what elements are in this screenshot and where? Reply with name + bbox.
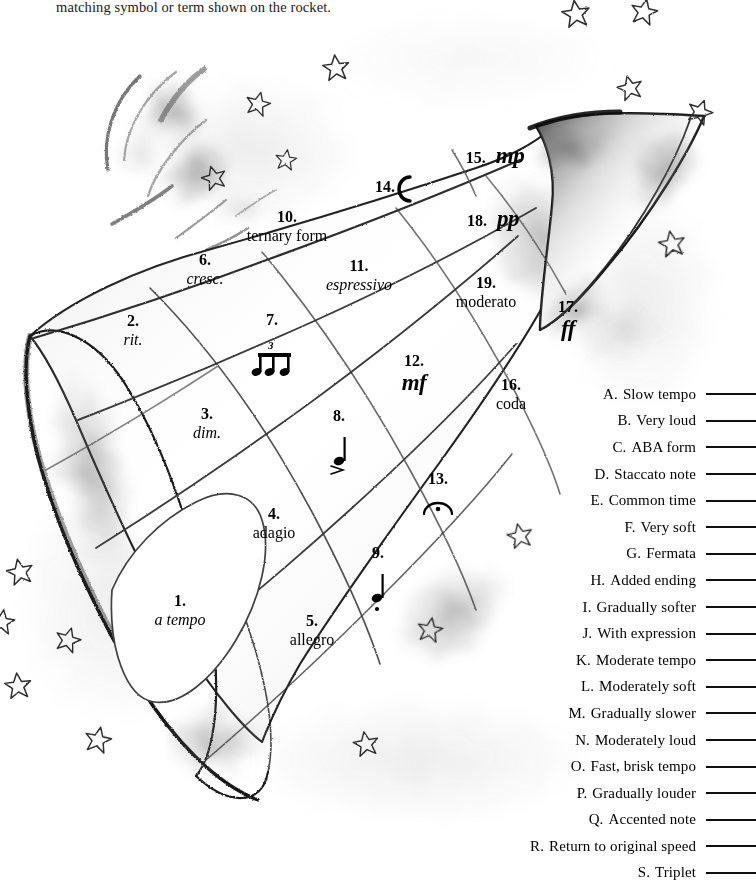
- rocket-label-3: 3. dim.: [193, 405, 221, 442]
- answer-row[interactable]: B.Very loud: [470, 408, 756, 435]
- rocket-label-19: 19. moderato: [456, 274, 516, 311]
- answer-blank-line[interactable]: [706, 579, 756, 581]
- rocket-label-18: 18. pp: [467, 207, 519, 232]
- answer-letter: Q.: [589, 811, 604, 827]
- answer-row[interactable]: K.Moderate tempo: [470, 647, 756, 674]
- rocket-label-7: 7.: [266, 311, 278, 328]
- answer-label: Slow tempo: [623, 386, 696, 402]
- rocket-label-5: 5. allegro: [290, 612, 334, 649]
- answer-blank-line[interactable]: [706, 845, 756, 847]
- answer-label: Common time: [609, 492, 696, 508]
- answer-label: ABA form: [631, 439, 696, 455]
- answer-letter: A.: [603, 386, 618, 402]
- answer-label: With expression: [597, 625, 696, 641]
- answer-label: Gradually slower: [591, 705, 696, 721]
- rocket-label-8: 8.: [333, 407, 345, 424]
- answer-label: Moderately soft: [599, 678, 696, 694]
- answer-row[interactable]: S.Triplet: [470, 860, 756, 880]
- answer-blank-line[interactable]: [706, 872, 756, 874]
- answer-row[interactable]: A.Slow tempo: [470, 381, 756, 408]
- answer-blank-line[interactable]: [706, 792, 756, 794]
- answer-letter: S.: [638, 864, 650, 880]
- answer-row[interactable]: H.Added ending: [470, 567, 756, 594]
- rocket-label-1: 1. a tempo: [154, 592, 205, 629]
- answer-letter: J.: [582, 625, 592, 641]
- answer-label: Return to original speed: [549, 838, 696, 854]
- answer-row[interactable]: Q.Accented note: [470, 807, 756, 834]
- answer-blank-line[interactable]: [706, 659, 756, 661]
- rocket-label-6: 6. cresc.: [186, 251, 223, 288]
- answer-letter: H.: [590, 572, 605, 588]
- answer-row[interactable]: O.Fast, brisk tempo: [470, 753, 756, 780]
- rocket-label-17: 17. ff: [558, 298, 578, 342]
- answer-label: Moderately loud: [595, 732, 696, 748]
- answer-letter: G.: [626, 545, 641, 561]
- answer-label: Moderate tempo: [596, 652, 696, 668]
- rocket-label-15: 15. mp: [466, 144, 524, 169]
- answer-blank-line[interactable]: [706, 712, 756, 714]
- answer-letter: C.: [612, 439, 626, 455]
- answer-blank-line[interactable]: [706, 500, 756, 502]
- answer-letter: L.: [581, 678, 594, 694]
- answer-label: Triplet: [655, 864, 696, 880]
- answer-blank-line[interactable]: [706, 686, 756, 688]
- rocket-label-12: 12. mf: [402, 352, 427, 396]
- answer-blank-line[interactable]: [706, 553, 756, 555]
- answer-blank-line[interactable]: [706, 739, 756, 741]
- answer-letter: P.: [577, 785, 588, 801]
- answer-letter: I.: [583, 599, 592, 615]
- answer-key-list: A.Slow tempo B.Very loud C.ABA form D.St…: [470, 381, 756, 880]
- answer-letter: B.: [617, 412, 631, 428]
- answer-row[interactable]: I.Gradually softer: [470, 594, 756, 621]
- answer-row[interactable]: G.Fermata: [470, 541, 756, 568]
- answer-letter: E.: [591, 492, 604, 508]
- answer-label: Gradually louder: [592, 785, 696, 801]
- answer-letter: R.: [530, 838, 544, 854]
- answer-label: Gradually softer: [597, 599, 696, 615]
- rocket-label-2: 2. rit.: [123, 312, 142, 349]
- answer-letter: M.: [568, 705, 585, 721]
- answer-letter: O.: [571, 758, 586, 774]
- answer-letter: F.: [624, 519, 635, 535]
- answer-row[interactable]: M.Gradually slower: [470, 700, 756, 727]
- answer-row[interactable]: N.Moderately loud: [470, 727, 756, 754]
- answer-row[interactable]: J.With expression: [470, 620, 756, 647]
- answer-blank-line[interactable]: [706, 420, 756, 422]
- answer-row[interactable]: R.Return to original speed: [470, 833, 756, 860]
- answer-label: Very loud: [636, 412, 696, 428]
- answer-row[interactable]: D.Staccato note: [470, 461, 756, 488]
- answer-row[interactable]: F.Very soft: [470, 514, 756, 541]
- answer-blank-line[interactable]: [706, 473, 756, 475]
- answer-row[interactable]: P.Gradually louder: [470, 780, 756, 807]
- answer-label: Accented note: [608, 811, 696, 827]
- answer-blank-line[interactable]: [706, 819, 756, 821]
- answer-letter: D.: [595, 466, 610, 482]
- answer-blank-line[interactable]: [706, 526, 756, 528]
- answer-blank-line[interactable]: [706, 766, 756, 768]
- answer-label: Staccato note: [614, 466, 696, 482]
- answer-letter: N.: [575, 732, 590, 748]
- answer-blank-line[interactable]: [706, 633, 756, 635]
- answer-blank-line[interactable]: [706, 446, 756, 448]
- answer-label: Very soft: [641, 519, 696, 535]
- answer-row[interactable]: C.ABA form: [470, 434, 756, 461]
- answer-row[interactable]: E.Common time: [470, 487, 756, 514]
- answer-blank-line[interactable]: [706, 393, 756, 395]
- answer-label: Fermata: [646, 545, 696, 561]
- rocket-label-14: 14.: [375, 178, 395, 195]
- answer-letter: K.: [576, 652, 591, 668]
- answer-label: Fast, brisk tempo: [591, 758, 696, 774]
- rocket-label-4: 4. adagio: [253, 505, 296, 542]
- rocket-label-13: 13.: [428, 470, 448, 487]
- worksheet-page: matching symbol or term shown on the roc…: [0, 0, 756, 880]
- rocket-label-10: 10. ternary form: [247, 208, 327, 245]
- answer-row[interactable]: L.Moderately soft: [470, 674, 756, 701]
- svg-text:3: 3: [267, 339, 274, 351]
- rocket-label-9: 9.: [372, 544, 384, 561]
- answer-label: Added ending: [610, 572, 696, 588]
- answer-blank-line[interactable]: [706, 606, 756, 608]
- rocket-label-11: 11. espressivo: [326, 257, 392, 294]
